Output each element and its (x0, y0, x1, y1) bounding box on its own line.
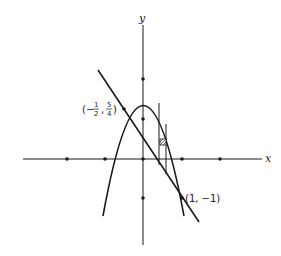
svg-text:,: , (101, 104, 104, 115)
intersection-point-left (122, 107, 126, 111)
x-tick-dot (180, 157, 184, 161)
svg-text:(−: (− (82, 104, 94, 115)
svg-text:5: 5 (107, 101, 111, 109)
intersection-point-right (180, 196, 184, 200)
y-tick-dot (141, 117, 145, 121)
y-axis-label: y (138, 12, 146, 25)
x-tick-dot (103, 157, 107, 161)
svg-text:4: 4 (107, 110, 112, 118)
x-axis-label: x (265, 152, 272, 165)
svg-text:2: 2 (94, 110, 98, 118)
x-tick-dot (65, 157, 69, 161)
secant-line (98, 70, 199, 222)
svg-text:1: 1 (94, 101, 98, 109)
hatched-square-icon (160, 139, 166, 145)
vertex-dot (141, 77, 145, 81)
diagram-canvas: y x (− 1 2 , 5 4 ) (1, −1) (0, 0, 281, 256)
svg-text:): ) (113, 104, 117, 115)
y-tick-dot (141, 196, 145, 200)
intersection-label-right: (1, −1) (185, 193, 220, 204)
intersection-label-left: (− 1 2 , 5 4 ) (82, 101, 117, 118)
origin-dot (141, 157, 145, 161)
x-tick-dot (218, 157, 222, 161)
